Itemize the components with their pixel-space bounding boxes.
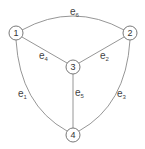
edge-label-e2: e2 — [100, 50, 110, 62]
node-4-label: 4 — [70, 130, 75, 140]
node-1: 1 — [9, 26, 23, 40]
edge-label-e3: e3 — [117, 88, 127, 100]
node-3: 3 — [66, 60, 80, 74]
edge-e6 — [22, 16, 124, 30]
edge-label-e5: e5 — [75, 87, 85, 99]
edge-label-e6: e6 — [70, 6, 80, 18]
node-3-label: 3 — [70, 62, 75, 72]
k4-graph-diagram: e6 e4 e2 e5 e1 e3 1 2 3 4 — [0, 0, 145, 149]
node-2: 2 — [123, 26, 137, 40]
node-2-label: 2 — [127, 28, 132, 38]
node-4: 4 — [66, 128, 80, 142]
node-1-label: 1 — [13, 28, 18, 38]
edge-label-e1: e1 — [18, 88, 28, 100]
